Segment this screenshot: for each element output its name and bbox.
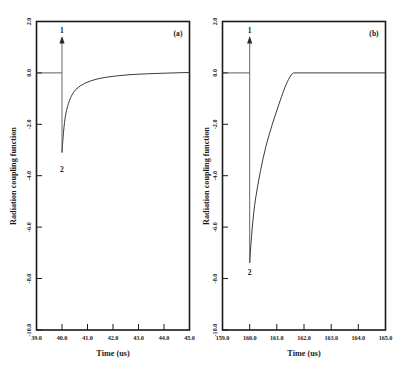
- transition-arrow-head-b: [247, 36, 252, 44]
- curve-marker-2-a: 2: [60, 165, 64, 174]
- figure-root: 39.0 40.0 41.0 42.0 43.0 44.0 45.0 2.0 0…: [0, 0, 402, 370]
- y-ticks-b: [223, 22, 229, 331]
- x-tick-label: 45.0: [184, 334, 194, 341]
- y-tick-label: -8.0: [25, 274, 32, 284]
- y-axis-title-b: Radiation coupling function: [202, 127, 211, 225]
- y-tick-label: -6.0: [25, 222, 32, 232]
- curve-marker-2-b: 2: [248, 268, 252, 277]
- y-tick-label: 2.0: [25, 18, 32, 26]
- x-tick-labels-a: 39.0 40.0 41.0 42.0 43.0 44.0 45.0: [31, 334, 194, 341]
- x-tick-label: 40.0: [57, 334, 67, 341]
- x-tick-label: 39.0: [31, 334, 41, 341]
- curve-marker-1-a: 1: [60, 26, 64, 35]
- y-tick-labels-b: 2.0 0.0 -2.0 -4.0 -6.0 -8.0 -10.0: [211, 18, 218, 337]
- panel-tag-a: (a): [174, 29, 183, 38]
- x-tick-label: 163.0: [324, 334, 337, 341]
- transition-arrow-head-a: [59, 36, 64, 44]
- x-tick-labels-b: 159.0 160.0 161.0 162.0 163.0 164.0 165.…: [216, 334, 392, 341]
- x-tick-label: 42.0: [108, 334, 118, 341]
- radiation-coupling-curve-a: [62, 73, 190, 153]
- x-axis-title-b: Time (us): [287, 349, 321, 358]
- y-tick-label: -10.0: [25, 324, 32, 337]
- chart-panel-a: 39.0 40.0 41.0 42.0 43.0 44.0 45.0 2.0 0…: [0, 0, 201, 370]
- y-tick-label: 0.0: [211, 69, 218, 77]
- y-tick-label: -4.0: [25, 171, 32, 181]
- x-tick-label: 162.0: [297, 334, 310, 341]
- x-ticks-a: [37, 324, 190, 330]
- plot-frame-a: [37, 22, 190, 331]
- x-tick-label: 165.0: [379, 334, 392, 341]
- y-tick-label: -6.0: [211, 222, 218, 232]
- panel-b-canvas: 159.0 160.0 161.0 162.0 163.0 164.0 165.…: [201, 0, 402, 370]
- plot-frame-b: [223, 22, 386, 331]
- y-axis-title-a: Radiation coupling function: [9, 127, 18, 225]
- curve-marker-1-b: 1: [248, 26, 252, 35]
- x-ticks-b: [223, 324, 386, 330]
- chart-panel-b: 159.0 160.0 161.0 162.0 163.0 164.0 165.…: [201, 0, 402, 370]
- y-tick-label: -10.0: [211, 324, 218, 337]
- x-tick-label: 41.0: [82, 334, 92, 341]
- y-tick-label: -2.0: [25, 119, 32, 129]
- radiation-coupling-curve-b: [250, 73, 386, 263]
- x-tick-label: 164.0: [352, 334, 365, 341]
- x-tick-label: 161.0: [270, 334, 283, 341]
- x-axis-title-a: Time (us): [96, 349, 130, 358]
- y-ticks-a: [37, 22, 43, 331]
- x-tick-label: 43.0: [133, 334, 143, 341]
- y-tick-label: -8.0: [211, 274, 218, 284]
- x-tick-label: 160.0: [243, 334, 256, 341]
- x-tick-label: 44.0: [159, 334, 169, 341]
- y-tick-label: -2.0: [211, 119, 218, 129]
- y-tick-label: 2.0: [211, 18, 218, 26]
- y-tick-labels-a: 2.0 0.0 -2.0 -4.0 -6.0 -8.0 -10.0: [25, 18, 32, 337]
- panel-tag-b: (b): [369, 29, 379, 38]
- y-tick-label: 0.0: [25, 69, 32, 77]
- panel-a-canvas: 39.0 40.0 41.0 42.0 43.0 44.0 45.0 2.0 0…: [0, 0, 201, 370]
- y-tick-label: -4.0: [211, 171, 218, 181]
